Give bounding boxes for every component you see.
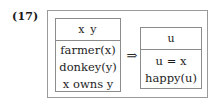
antecedent-universe: x y xyxy=(56,19,120,41)
consequent-universe: u xyxy=(141,28,201,50)
consequent-condition: happy(u) xyxy=(145,70,197,87)
outer-drs-box: x y farmer(x) donkey(y) x owns y ⇒ u u =… xyxy=(47,10,208,98)
example-number-label: (17) xyxy=(12,10,39,23)
antecedent-condition: x owns y xyxy=(63,76,113,93)
consequent-conditions: u = x happy(u) xyxy=(141,50,201,88)
consequent-condition: u = x xyxy=(156,53,187,70)
antecedent-condition: farmer(x) xyxy=(60,42,115,59)
antecedent-conditions: farmer(x) donkey(y) x owns y xyxy=(56,41,120,93)
antecedent-drs-box: x y farmer(x) donkey(y) x owns y xyxy=(55,18,121,92)
implication-arrow-icon: ⇒ xyxy=(124,47,140,65)
consequent-drs-box: u u = x happy(u) xyxy=(140,27,202,89)
drs-figure: (17) x y farmer(x) donkey(y) x owns y ⇒ … xyxy=(0,0,217,112)
antecedent-condition: donkey(y) xyxy=(59,59,116,76)
